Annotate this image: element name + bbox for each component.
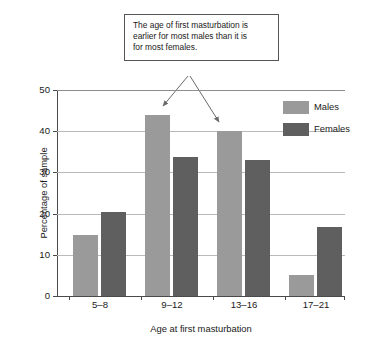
y-tick-label-0: 0 (45, 291, 50, 301)
bar-chart-figure: The age of first masturbation is earlier… (0, 0, 372, 341)
bar-group-13-16 (213, 90, 275, 296)
bar-group-5-8 (69, 90, 131, 296)
legend-swatch-males-icon (283, 101, 309, 114)
legend-label-males: Males (314, 100, 339, 114)
bar-males-9-12 (145, 115, 170, 296)
legend-swatch-females-icon (283, 123, 309, 136)
legend-label-females: Females (314, 122, 350, 136)
bar-females-5-8 (101, 212, 126, 296)
callout-line-1: The age of first masturbation is (133, 20, 271, 31)
bar-females-9-12 (173, 157, 198, 296)
y-tick-0 (53, 296, 57, 297)
bar-males-13-16 (217, 131, 242, 296)
bar-females-13-16 (245, 160, 270, 296)
bar-group-17-21 (285, 90, 347, 296)
y-axis-title: Percentage of sample (38, 147, 49, 238)
bar-group-9-12 (141, 90, 203, 296)
x-tick-label-13-16: 13–16 (213, 300, 275, 310)
x-tick-label-17-21: 17–21 (285, 300, 347, 310)
x-axis-line (57, 296, 345, 297)
x-axis-title: Age at first masturbation (57, 323, 345, 334)
callout-annotation: The age of first masturbation is earlier… (124, 14, 279, 61)
callout-line-2: earlier for most males than it is (133, 31, 271, 42)
bar-groups (57, 90, 345, 296)
bar-males-17-21 (289, 275, 314, 296)
bar-males-5-8 (73, 235, 98, 296)
callout-line-3: for most females. (133, 42, 271, 53)
y-tick-label-50: 50 (39, 85, 50, 95)
y-tick-label-10: 10 (39, 250, 50, 260)
bar-females-17-21 (317, 227, 342, 296)
x-tick-label-5-8: 5–8 (69, 300, 131, 310)
x-tick-label-9-12: 9–12 (141, 300, 203, 310)
y-tick-label-40: 40 (39, 126, 50, 136)
plot-area: 50 40 30 20 10 0 (57, 90, 345, 296)
